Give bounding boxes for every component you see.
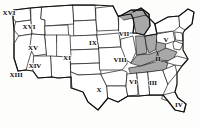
state-oklahoma	[71, 63, 101, 75]
region-label-xv: XV	[28, 44, 38, 52]
region-label-xvi-pnw: XVI	[3, 9, 16, 17]
region-label-ii: II	[155, 55, 161, 63]
state-north-dakota	[73, 5, 96, 21]
state-new-jersey	[175, 32, 183, 41]
state-kansas	[70, 49, 100, 64]
map-canvas: XVI XVI XV XIV XIII XI X IX VIII VII VI …	[0, 0, 200, 127]
us-region-map-figure: XVI XVI XV XIV XIII XI X IX VIII VII VI …	[0, 0, 200, 127]
state-new-york	[155, 16, 180, 33]
region-label-iii: III	[149, 79, 157, 87]
state-louisiana	[107, 86, 128, 102]
region-label-ix: IX	[89, 39, 97, 47]
region-label-x: X	[96, 86, 101, 94]
state-montana	[41, 5, 74, 26]
region-label-xi: XI	[63, 54, 71, 62]
region-label-vi: VI	[129, 78, 137, 86]
state-iowa	[97, 33, 121, 48]
region-label-xiii: XIII	[9, 71, 23, 79]
region-label-iv: IV	[175, 101, 183, 109]
region-label-xiv: XIV	[29, 62, 42, 70]
region-label-viii: VIII	[113, 56, 127, 64]
state-boundaries-layer	[13, 5, 194, 112]
state-maryland-delaware	[173, 41, 183, 50]
region-label-xvi: XVI	[23, 23, 36, 31]
region-label-vii: VII	[119, 30, 130, 38]
region-label-v: V	[163, 36, 168, 44]
state-new-england	[179, 9, 194, 30]
state-south-dakota	[74, 20, 97, 36]
